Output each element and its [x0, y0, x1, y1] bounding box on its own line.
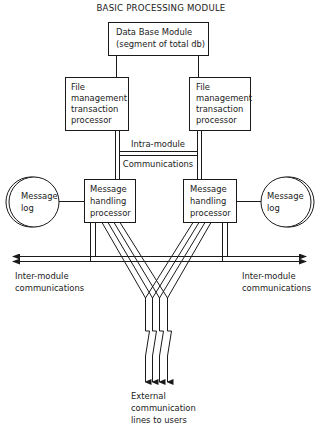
svg-text:lines to users: lines to users: [131, 415, 187, 425]
svg-text:(segment of total db): (segment of total db): [116, 39, 205, 49]
svg-text:processor: processor: [190, 208, 231, 218]
right-mhp-to-bus-link: [223, 223, 228, 262]
right-message-handling-processor: Message handling processor: [184, 180, 237, 223]
svg-text:log: log: [267, 203, 280, 213]
svg-text:log: log: [21, 203, 34, 213]
svg-text:management: management: [71, 93, 128, 103]
svg-text:Message: Message: [21, 191, 58, 201]
svg-text:transaction: transaction: [196, 104, 243, 114]
svg-text:File: File: [71, 82, 85, 92]
intra-module-communications: Intra-module Communications: [120, 139, 198, 169]
svg-text:communications: communications: [15, 283, 84, 293]
svg-text:handling: handling: [190, 196, 226, 206]
svg-text:processor: processor: [90, 208, 131, 218]
svg-text:Message: Message: [190, 184, 227, 194]
svg-text:Communications: Communications: [123, 159, 193, 169]
external-lines-right-group: [146, 223, 212, 299]
left-message-handling-processor: Message handling processor: [85, 180, 136, 223]
right-fmt-to-mhp-link: [198, 131, 202, 180]
svg-text:communication: communication: [131, 403, 196, 413]
svg-text:management: management: [196, 93, 253, 103]
svg-text:processor: processor: [71, 115, 112, 125]
inter-module-bus: [13, 257, 306, 262]
left-file-management-processor: File management transaction processor: [66, 78, 129, 131]
svg-text:External: External: [131, 391, 166, 401]
svg-text:Message: Message: [90, 184, 127, 194]
left-fmt-to-mhp-link: [116, 131, 120, 180]
svg-text:Intra-module: Intra-module: [131, 139, 185, 149]
svg-text:Inter-module: Inter-module: [15, 271, 69, 281]
basic-processing-module-diagram: BASIC PROCESSING MODULE Data Base Module…: [0, 0, 320, 432]
svg-text:communications: communications: [242, 283, 311, 293]
svg-text:Inter-module: Inter-module: [242, 271, 296, 281]
external-lines-label: External communication lines to users: [131, 391, 196, 425]
external-lines-left-group: [102, 223, 168, 299]
right-inter-module-label: Inter-module communications: [242, 271, 311, 293]
right-file-management-processor: File management transaction processor: [190, 78, 253, 131]
svg-text:processor: processor: [196, 115, 237, 125]
svg-text:File: File: [196, 82, 210, 92]
diagram-title: BASIC PROCESSING MODULE: [96, 3, 225, 13]
database-module: Data Base Module (segment of total db): [109, 23, 209, 56]
left-message-log: Message log: [6, 177, 59, 227]
external-communication-lines: [146, 298, 172, 382]
svg-text:Message: Message: [267, 191, 304, 201]
left-mhp-to-bus-link: [91, 223, 96, 262]
left-inter-module-label: Inter-module communications: [15, 271, 84, 293]
svg-text:handling: handling: [90, 196, 126, 206]
svg-text:Data Base Module: Data Base Module: [116, 27, 192, 37]
svg-text:transaction: transaction: [71, 104, 118, 114]
right-message-log: Message log: [261, 177, 314, 227]
